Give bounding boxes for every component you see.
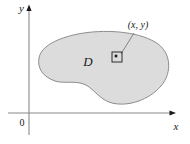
- figure-container: y x 0 D (x, y): [0, 0, 190, 144]
- region-diagram-svg: y x 0 D (x, y): [0, 0, 190, 144]
- point-marker-dot-icon: [115, 55, 118, 58]
- y-axis-label: y: [18, 2, 24, 14]
- y-axis-arrowhead-icon: [26, 5, 31, 12]
- x-axis-arrowhead-icon: [170, 110, 177, 115]
- origin-label: 0: [20, 117, 25, 128]
- region-d-shape: [39, 31, 169, 104]
- point-coordinate-label: (x, y): [128, 19, 149, 31]
- region-label-d: D: [82, 54, 93, 69]
- x-axis-label: x: [173, 120, 179, 132]
